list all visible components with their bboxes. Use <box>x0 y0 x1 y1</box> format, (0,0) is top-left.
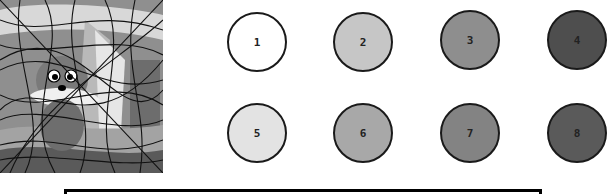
swatch-number: 4 <box>574 34 581 47</box>
swatch-number: 8 <box>574 127 581 140</box>
swatch-number: 5 <box>254 127 261 140</box>
coloring-picture[interactable] <box>0 0 163 173</box>
color-swatch-1[interactable]: 1 <box>227 12 287 72</box>
color-swatch-3[interactable]: 3 <box>440 10 500 70</box>
swatch-number: 3 <box>467 34 474 47</box>
color-swatch-8[interactable]: 8 <box>547 103 607 163</box>
swatch-number: 6 <box>360 127 367 140</box>
caption-box <box>64 189 542 194</box>
swatch-number: 1 <box>254 36 261 49</box>
color-swatch-5[interactable]: 5 <box>227 103 287 163</box>
swatch-number: 7 <box>467 127 474 140</box>
color-swatch-6[interactable]: 6 <box>333 103 393 163</box>
swatch-number: 2 <box>360 36 367 49</box>
color-swatch-4[interactable]: 4 <box>547 10 607 70</box>
color-swatch-7[interactable]: 7 <box>440 103 500 163</box>
color-swatch-2[interactable]: 2 <box>333 12 393 72</box>
